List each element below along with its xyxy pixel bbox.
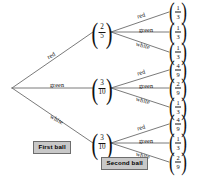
fraction-numerator: 1 [176, 44, 179, 51]
fraction-numerator: 1 [176, 4, 179, 11]
branch-label-green: green [50, 81, 64, 88]
right-paren: ) [106, 128, 113, 158]
fraction-numerator: 3 [100, 135, 104, 142]
fraction-denominator: 3 [176, 13, 179, 20]
probability-node-green: (310) [91, 78, 112, 98]
fraction-denominator: 3 [176, 33, 179, 40]
fraction-numerator: 1 [176, 99, 179, 106]
left-paren: ( [92, 17, 99, 47]
fraction-numerator: 2 [176, 154, 179, 161]
probability-node-red: (25) [92, 22, 113, 42]
fraction-numerator: 3 [100, 80, 104, 87]
fraction-denominator: 10 [98, 89, 105, 96]
fraction-denominator: 3 [176, 144, 179, 151]
right-paren: ) [106, 73, 113, 103]
probability-node-white: (310) [91, 133, 112, 153]
fraction-denominator: 10 [98, 144, 105, 151]
branch-label-red-green: green [139, 26, 153, 33]
branch-label-white-green: green [139, 137, 153, 144]
branch-label-green-green: green [139, 82, 153, 89]
fraction-denominator: 5 [100, 33, 104, 40]
fraction-denominator: 9 [176, 89, 179, 96]
fraction-numerator: 4 [176, 62, 179, 69]
fraction-numerator: 1 [176, 24, 179, 31]
right-paren: ) [106, 17, 113, 47]
stage-label-second-ball: Second ball [101, 157, 148, 170]
left-paren: ( [169, 149, 175, 175]
fraction-denominator: 9 [176, 125, 179, 132]
right-paren: ) [181, 149, 187, 175]
probability-tree-diagram: (25)(13)(13)(13)(310)(49)(29)(13)(310)(4… [0, 0, 197, 186]
probability-leaf-white-white: (29) [169, 154, 187, 171]
fraction-numerator: 2 [100, 24, 104, 31]
fraction-denominator: 9 [176, 71, 179, 78]
fraction-numerator: 2 [176, 80, 179, 87]
left-paren: ( [91, 73, 98, 103]
left-paren: ( [91, 128, 98, 158]
fraction-denominator: 3 [176, 108, 179, 115]
fraction-denominator: 9 [176, 163, 179, 170]
fraction-numerator: 4 [176, 116, 179, 123]
stage-label-first-ball: First ball [33, 141, 71, 154]
fraction-denominator: 3 [176, 53, 179, 60]
fraction-numerator: 1 [176, 135, 179, 142]
